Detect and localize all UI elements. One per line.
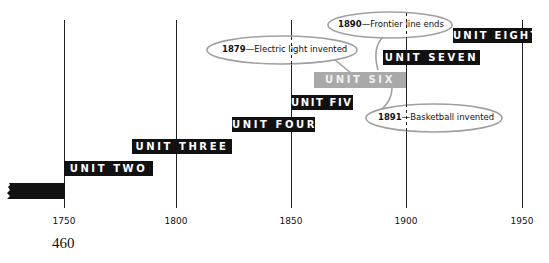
year-label-1950: 1950 xyxy=(511,216,534,226)
unit-one-torn-bar xyxy=(7,183,65,199)
year-label-1900: 1900 xyxy=(395,216,418,226)
unit-two-bar: UNIT TWO xyxy=(64,161,153,176)
unit-four-bar: UNIT FOUR xyxy=(232,117,315,132)
unit-five-bar: UNIT FIVE xyxy=(291,95,353,110)
year-label-1800: 1800 xyxy=(165,216,188,226)
unit-seven-bar: UNIT SEVEN xyxy=(383,50,480,65)
page-number: 460 xyxy=(52,235,75,252)
callout-basketball: 1891—Basketball invented xyxy=(378,112,494,122)
callout-label: —Frontier line ends xyxy=(362,19,444,29)
callout-label: —Electric light invented xyxy=(246,44,348,54)
callout-label: —Basketball invented xyxy=(402,112,495,122)
unit-eight-bar: UNIT EIGHT xyxy=(453,28,532,43)
unit-six-bar: UNIT SIX xyxy=(314,72,406,88)
callout-year: 1890 xyxy=(338,19,362,29)
unit-three-bar: UNIT THREE xyxy=(132,139,232,154)
callout-year: 1879 xyxy=(222,44,246,54)
callout-year: 1891 xyxy=(378,112,402,122)
year-label-1850: 1850 xyxy=(280,216,303,226)
callout-frontier-line: 1890—Frontier line ends xyxy=(338,19,444,29)
year-label-1750: 1750 xyxy=(53,216,76,226)
callout-electric-light: 1879—Electric light invented xyxy=(222,44,347,54)
